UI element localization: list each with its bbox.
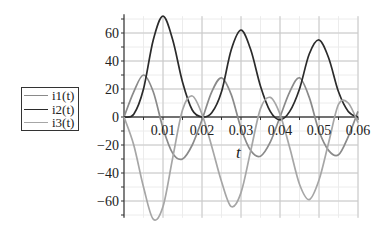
y-tick-label: −20 [97,138,119,153]
legend-swatch-i3 [24,122,48,123]
x-tick-label: 0.06 [346,123,371,138]
y-tick-label: 60 [105,26,119,41]
legend-item-i3: i3(t) [24,116,78,130]
legend-label: i3(t) [52,116,74,129]
legend-swatch-i2 [24,109,48,110]
legend-item-i1: i1(t) [24,89,78,103]
x-tick-label: 0.02 [190,123,215,138]
y-tick-label: 40 [105,54,119,69]
x-tick-label: 0.05 [307,123,332,138]
legend-label: i2(t) [52,103,74,116]
legend: i1(t) i2(t) i3(t) [21,87,79,131]
x-tick-label: 0.04 [268,123,293,138]
x-tick-label: 0.03 [229,123,254,138]
legend-item-i2: i2(t) [24,103,78,117]
x-tick-label: 0.01 [151,123,176,138]
y-tick-label: 0 [112,110,119,125]
legend-label: i1(t) [52,89,74,102]
y-tick-label: 20 [105,82,119,97]
legend-swatch-i1 [24,95,48,96]
y-tick-label: −40 [97,166,119,181]
y-tick-label: −60 [97,194,119,209]
